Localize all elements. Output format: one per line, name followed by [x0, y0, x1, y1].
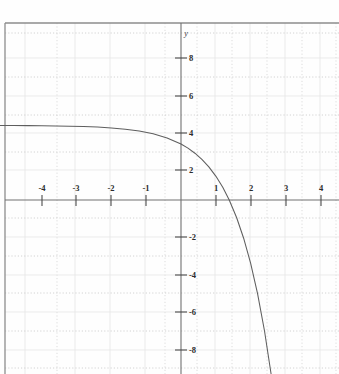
graph-svg: -4 -3 -2 -1 1 2 3 4 8 6 4 2 -2 -4 -6 -8 …: [0, 0, 339, 374]
y-axis-label: y: [183, 29, 188, 38]
x-tick-label: -4: [38, 183, 46, 193]
y-tick-label: 8: [189, 53, 193, 63]
x-tick-label: 2: [249, 183, 253, 193]
y-tick-label: -8: [189, 345, 196, 355]
x-tick-label: -1: [142, 183, 149, 193]
y-tick-label: -6: [189, 307, 196, 317]
y-tick-label: 2: [189, 165, 193, 175]
x-tick-label: -2: [107, 183, 114, 193]
paper-background: [0, 0, 339, 374]
exponential-function-figure: 15.f (x) = -ex+ 4: [0, 0, 339, 374]
x-tick-label: 1: [214, 183, 218, 193]
x-tick-label: 3: [284, 183, 288, 193]
x-tick-label: -3: [72, 183, 79, 193]
y-tick-label: -2: [189, 232, 196, 242]
y-tick-label: 6: [189, 91, 193, 101]
coordinate-plane: -4 -3 -2 -1 1 2 3 4 8 6 4 2 -2 -4 -6 -8 …: [0, 0, 339, 374]
y-tick-label: -4: [189, 270, 197, 280]
